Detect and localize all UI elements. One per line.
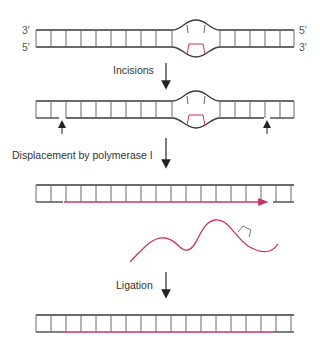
lesion-icon (238, 226, 251, 237)
stage-1-damaged-duplex (36, 20, 294, 57)
stage-4-ligation (36, 315, 294, 332)
label-3prime-top-left: 3′ (22, 25, 30, 36)
lesion-icon (187, 44, 205, 54)
excised-oligonucleotide (130, 220, 278, 262)
step-label-ligation: Ligation (116, 280, 153, 291)
stage-2-incisions (36, 91, 294, 134)
stage-3-displacement (36, 185, 294, 262)
label-5prime-top-right: 5′ (299, 25, 307, 36)
step-label-displacement: Displacement by polymerase I (12, 150, 153, 161)
label-3prime-bottom-right: 3′ (299, 42, 307, 53)
step-label-incisions: Incisions (113, 65, 154, 76)
label-5prime-bottom-left: 5′ (22, 42, 30, 53)
excision-repair-diagram (0, 0, 320, 340)
